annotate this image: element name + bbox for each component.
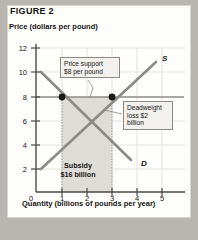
y-tick-label-12: 12 [13,44,27,53]
subsidy-region-label: Subsidy $16 billion [48,161,108,179]
point-quantity-supplied [109,94,116,101]
demand-curve-label: D [141,159,147,168]
y-tick-label-2: 2 [13,165,27,174]
deadweight-callout-line1: Deadweight [127,104,169,112]
x-tick-label-1: 1 [56,194,68,203]
subsidy-label-line1: Subsidy [48,161,108,170]
x-tick-label-3: 3 [106,194,118,203]
origin-label: 0 [25,194,37,203]
supply-curve-label: S [162,54,167,63]
deadweight-loss-callout: Deadweight loss $2 billion [123,101,173,130]
price-support-callout: Price support $8 per pound [60,57,120,78]
subsidy-label-line2: $16 billion [48,170,108,179]
deadweight-callout-line3: billion [127,119,169,127]
x-tick-label-2: 2 [81,194,93,203]
x-tick-label-5: 5 [156,194,168,203]
y-tick-label-8: 8 [13,93,27,102]
price-support-leader-line [88,80,93,97]
price-support-callout-line2: $8 per pound [64,68,116,76]
x-tick-label-4: 4 [131,194,143,203]
y-tick-label-6: 6 [13,117,27,126]
y-tick-label-10: 10 [13,68,27,77]
point-quantity-demanded [59,94,66,101]
price-support-callout-line1: Price support [64,60,116,68]
y-tick-label-4: 4 [13,141,27,150]
deadweight-callout-line2: loss $2 [127,112,169,120]
